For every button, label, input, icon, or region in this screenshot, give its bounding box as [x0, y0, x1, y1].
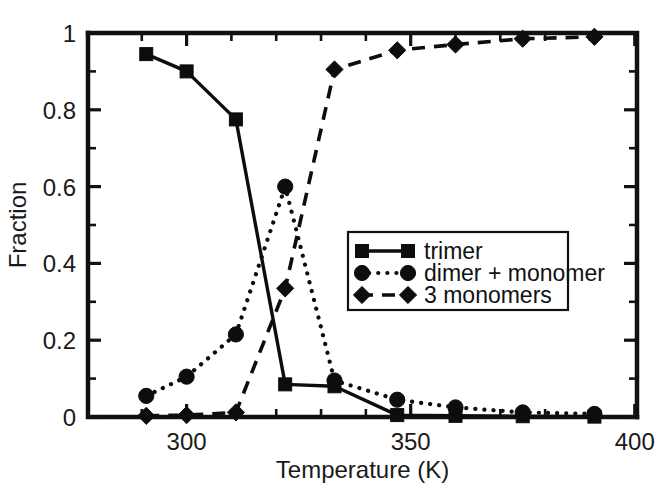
data-point-0 — [229, 113, 242, 126]
x-axis-title: Temperature (K) — [276, 456, 449, 483]
y-axis-title: Fraction — [4, 182, 31, 269]
x-tick-label: 400 — [615, 428, 655, 455]
chart-page: 00.20.40.60.81300350400Temperature (K)Fr… — [0, 0, 670, 492]
data-point-1 — [327, 373, 342, 388]
data-point-2 — [178, 406, 195, 423]
series-line-2 — [146, 37, 594, 416]
data-point-1 — [278, 179, 293, 194]
y-tick-label: 0.6 — [43, 174, 76, 201]
data-point-1 — [448, 400, 463, 415]
data-point-0 — [279, 378, 292, 391]
y-tick-label: 0 — [63, 404, 76, 431]
data-point-2 — [138, 407, 155, 424]
data-point-2 — [389, 42, 406, 59]
axis-frame — [88, 33, 637, 417]
data-point-1 — [179, 369, 194, 384]
data-point-1 — [390, 392, 405, 407]
data-point-0 — [140, 48, 153, 61]
data-point-1 — [515, 405, 530, 420]
legend-marker-end-1 — [400, 265, 415, 280]
legend-marker-0 — [356, 245, 369, 258]
y-tick-label: 0.2 — [43, 327, 76, 354]
data-point-2 — [326, 61, 343, 78]
data-point-1 — [228, 327, 243, 342]
y-tick-label: 0.8 — [43, 97, 76, 124]
line-chart: 00.20.40.60.81300350400Temperature (K)Fr… — [0, 0, 670, 492]
data-point-1 — [139, 388, 154, 403]
legend-marker-end-0 — [402, 245, 415, 258]
y-tick-label: 0.4 — [43, 250, 76, 277]
axis-spines — [88, 33, 637, 417]
data-point-0 — [180, 65, 193, 78]
y-tick-label: 1 — [63, 20, 76, 47]
legend-marker-1 — [354, 265, 369, 280]
x-tick-label: 350 — [391, 428, 431, 455]
x-tick-label: 300 — [167, 428, 207, 455]
data-point-1 — [587, 406, 602, 421]
legend-label-2: 3 monomers — [424, 282, 552, 308]
data-point-2 — [447, 36, 464, 53]
data-point-0 — [391, 409, 404, 422]
data-point-2 — [277, 280, 294, 297]
